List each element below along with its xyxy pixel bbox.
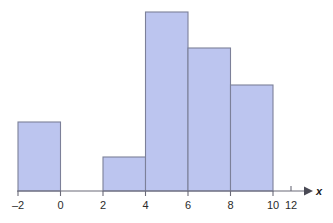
x-tick-label: 0 <box>57 199 63 211</box>
x-tick-label: –2 <box>12 199 24 211</box>
x-tick-label: 2 <box>100 199 106 211</box>
x-tick-label: 6 <box>185 199 191 211</box>
x-axis-arrow <box>304 187 313 196</box>
histogram-bar <box>103 157 146 191</box>
bars-group <box>18 12 273 191</box>
x-tick-label: 10 <box>267 199 279 211</box>
x-tick-label: 12 <box>285 199 297 211</box>
histogram-bar <box>146 12 189 191</box>
x-axis-tick-labels: –2 0 2 4 6 8 10 12 <box>12 199 297 211</box>
x-tick-label: 4 <box>142 199 148 211</box>
x-axis-label: x <box>315 185 323 197</box>
histogram-bar <box>18 122 61 191</box>
x-tick-label: 8 <box>227 199 233 211</box>
histogram-bar <box>231 85 274 191</box>
histogram-figure: –2 0 2 4 6 8 10 12 x <box>0 0 333 223</box>
histogram-bar <box>188 48 231 191</box>
histogram-plot: –2 0 2 4 6 8 10 12 x <box>0 0 333 223</box>
